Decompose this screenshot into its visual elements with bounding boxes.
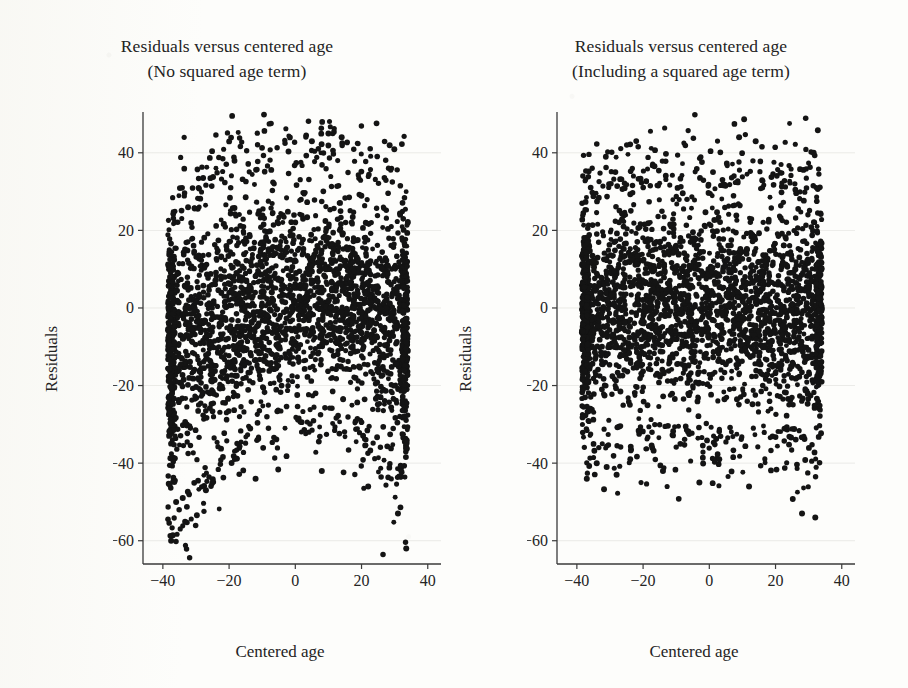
panel-title-right: Residuals versus centered age (Including… bbox=[454, 34, 908, 84]
panel-title-right-line1: Residuals versus centered age bbox=[575, 36, 787, 56]
y-tick-label: −40 bbox=[527, 455, 548, 472]
y-tick-label: 0 bbox=[540, 299, 548, 316]
panel-title-left-line2: (No squared age term) bbox=[0, 59, 454, 84]
y-tick-label: −20 bbox=[113, 377, 134, 394]
y-axis-label-right: Residuals bbox=[456, 326, 476, 392]
y-tick-label: 40 bbox=[118, 144, 134, 161]
scatter-points bbox=[165, 112, 411, 561]
residual-diagnostic-figure: Residuals versus centered age (No square… bbox=[0, 0, 908, 688]
x-tick-label: 20 bbox=[354, 572, 370, 589]
y-tick-label: 40 bbox=[532, 144, 548, 161]
x-tick-label: −20 bbox=[217, 572, 242, 589]
x-tick-label: 20 bbox=[768, 572, 784, 589]
y-tick-label: 20 bbox=[532, 222, 548, 239]
plot-area-left: 40200−20−40−60−40−2002040 bbox=[113, 108, 447, 600]
x-axis-label-right: Centered age bbox=[527, 642, 861, 662]
y-tick-label: 20 bbox=[118, 222, 134, 239]
x-tick-label: 40 bbox=[834, 572, 850, 589]
x-tick-label: 0 bbox=[705, 572, 713, 589]
scatter-points bbox=[579, 112, 825, 502]
x-tick-label: 40 bbox=[420, 572, 436, 589]
y-tick-label: −20 bbox=[527, 377, 548, 394]
panel-title-left-line1: Residuals versus centered age bbox=[121, 36, 333, 56]
y-axis-label-left: Residuals bbox=[42, 326, 62, 392]
x-tick-label: −20 bbox=[631, 572, 656, 589]
y-tick-label: −40 bbox=[113, 455, 134, 472]
plot-area-right: 40200−20−40−60−40−2002040 bbox=[527, 108, 861, 600]
x-tick-label: −40 bbox=[150, 572, 175, 589]
y-tick-label: −60 bbox=[113, 532, 134, 549]
y-tick-label: 0 bbox=[126, 299, 134, 316]
y-tick-label: −60 bbox=[527, 532, 548, 549]
scatter-plot-right: 40200−20−40−60−40−2002040 bbox=[527, 108, 861, 600]
scatter-plot-left: 40200−20−40−60−40−2002040 bbox=[113, 108, 447, 600]
x-tick-label: −40 bbox=[564, 572, 589, 589]
panel-title-left: Residuals versus centered age (No square… bbox=[0, 34, 454, 84]
panel-including-squared-term: Residuals versus centered age (Including… bbox=[454, 0, 908, 688]
x-tick-label: 0 bbox=[291, 572, 299, 589]
x-axis-label-left: Centered age bbox=[113, 642, 447, 662]
panel-no-squared-term: Residuals versus centered age (No square… bbox=[0, 0, 454, 688]
panel-title-right-line2: (Including a squared age term) bbox=[454, 59, 908, 84]
